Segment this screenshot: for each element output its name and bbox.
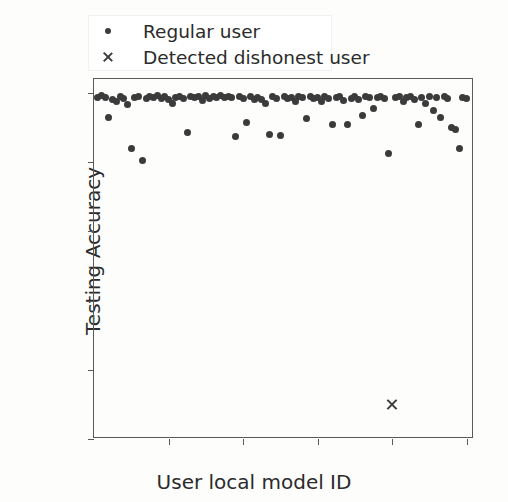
data-point-regular (355, 96, 362, 103)
data-point-regular (135, 93, 142, 100)
data-point-regular (262, 100, 269, 107)
data-point-regular (266, 131, 273, 138)
data-point-regular (169, 100, 176, 107)
data-point-regular (370, 105, 377, 112)
data-point-regular (456, 145, 463, 152)
data-point-regular (366, 94, 373, 101)
y-tick (88, 162, 94, 163)
x-tick (467, 439, 468, 445)
data-point-regular (184, 129, 191, 136)
scatter-chart-figure: Testing Accuracy User local model ID 020… (0, 0, 508, 502)
y-tick (88, 93, 94, 94)
legend-label: Regular user (143, 21, 260, 42)
data-point-regular (240, 95, 247, 102)
x-tick (392, 439, 393, 445)
data-point-regular (243, 119, 250, 126)
data-point-regular (437, 114, 444, 121)
y-tick (88, 439, 94, 440)
data-point-regular (411, 96, 418, 103)
data-point-regular (124, 101, 131, 108)
data-point-regular (344, 121, 351, 128)
y-tick (88, 370, 94, 371)
data-point-regular (430, 107, 437, 114)
data-point-regular (180, 95, 187, 102)
data-point-regular (385, 150, 392, 157)
legend-item-regular-user: Regular user (89, 18, 331, 44)
x-tick (318, 439, 319, 445)
x-tick (169, 439, 170, 445)
data-point-regular (105, 114, 112, 121)
legend-x-icon (100, 49, 116, 65)
data-point-regular (232, 133, 239, 140)
y-tick (88, 231, 94, 232)
data-point-regular (426, 93, 433, 100)
data-point-regular (228, 94, 235, 101)
data-point-regular (325, 95, 332, 102)
data-point-dishonest (386, 398, 399, 411)
data-point-regular (463, 95, 470, 102)
data-point-regular (128, 145, 135, 152)
data-point-regular (444, 95, 451, 102)
data-point-regular (422, 100, 429, 107)
data-point-regular (329, 121, 336, 128)
chart-legend: Regular user Detected dishonest user (88, 15, 332, 71)
data-point-regular (277, 132, 284, 139)
plot-area: 020406080100 20406080100 (93, 78, 473, 438)
data-point-regular (273, 95, 280, 102)
legend-label: Detected dishonest user (143, 47, 370, 68)
legend-dot-icon (100, 23, 116, 39)
data-point-regular (303, 115, 310, 122)
data-point-regular (452, 126, 459, 133)
x-tick (243, 439, 244, 445)
data-point-regular (359, 112, 366, 119)
data-point-regular (102, 94, 109, 101)
data-point-regular (433, 94, 440, 101)
data-point-regular (381, 95, 388, 102)
data-point-regular (299, 94, 306, 101)
data-point-regular (415, 121, 422, 128)
data-point-regular (139, 157, 146, 164)
data-point-regular (340, 97, 347, 104)
legend-item-detected-dishonest-user: Detected dishonest user (89, 44, 331, 70)
x-axis-title: User local model ID (0, 470, 508, 494)
y-tick (88, 301, 94, 302)
